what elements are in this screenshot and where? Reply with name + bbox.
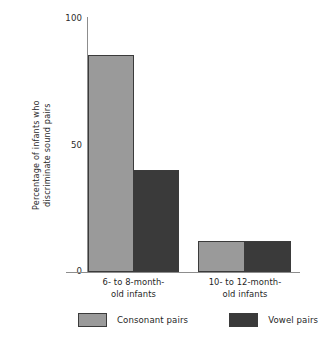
legend-swatch-vowel-pairs (229, 313, 258, 327)
x-axis-line (66, 272, 300, 273)
legend-label-consonant-pairs: Consonant pairs (117, 315, 188, 325)
legend-item-vowel-pairs: Vowel pairs (229, 313, 318, 327)
plot-area (88, 17, 300, 272)
chart-legend: Consonant pairs Vowel pairs (78, 313, 318, 327)
bar-consonant-6-8-months (88, 55, 134, 272)
bar-vowel-10-12-months (244, 241, 291, 272)
legend-label-vowel-pairs: Vowel pairs (268, 315, 318, 325)
x-axis-group-label-10-12-months: 10- to 12-month- old infants (198, 277, 292, 300)
y-axis-label: Percentage of infants who discriminate s… (31, 40, 53, 270)
y-axis-label-line-2: discriminate sound pairs (42, 40, 53, 270)
y-axis-label-line-1: Percentage of infants who (31, 40, 42, 270)
legend-swatch-consonant-pairs (78, 313, 107, 327)
x-axis-group-label-6-8-months: 6- to 8-month- old infants (88, 277, 179, 300)
bar-consonant-10-12-months (198, 241, 245, 272)
bar-vowel-6-8-months (133, 170, 179, 272)
bar-chart-figure: Percentage of infants who discriminate s… (0, 0, 323, 338)
legend-item-consonant-pairs: Consonant pairs (78, 313, 188, 327)
